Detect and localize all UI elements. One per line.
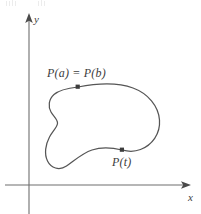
point-label-pa-pb: P(a) = P(b) (47, 67, 106, 79)
point-marker-pab (76, 85, 80, 89)
point-marker-pt (120, 148, 124, 152)
point-label-pt: P(t) (112, 156, 131, 168)
parametric-curve (46, 84, 160, 168)
x-axis-label: x (188, 192, 193, 203)
scan-artifact-marks (6, 0, 45, 6)
figure-canvas (0, 0, 201, 214)
y-axis (25, 13, 33, 214)
y-axis-label: y (34, 14, 39, 25)
x-axis (5, 181, 191, 189)
math-figure: y x P(a) = P(b) P(t) (0, 0, 201, 214)
